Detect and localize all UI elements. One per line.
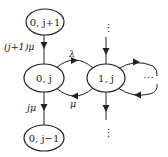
vertical-ellipsis-bottom: ⋮ bbox=[103, 127, 114, 140]
edge-right-to-1j bbox=[118, 84, 157, 99]
edge-1j-to-below: ⋮ bbox=[103, 92, 115, 140]
edge-label-jp1-mu: (j+1)μ bbox=[4, 41, 35, 52]
node-label: 0, j+1 bbox=[30, 17, 61, 28]
edge-label-j-mu: jμ bbox=[25, 102, 36, 113]
horizontal-ellipsis: ⋯ bbox=[143, 72, 154, 85]
node-label: 0, j−1 bbox=[29, 133, 60, 144]
node-0-j-minus-1: 0, j−1 bbox=[24, 125, 64, 151]
node-0-j-plus-1: 0, j+1 bbox=[26, 9, 64, 35]
node-label: 1, j bbox=[98, 73, 114, 84]
node-label: 0, j bbox=[36, 73, 52, 84]
edge-0jp1-to-0j bbox=[41, 35, 48, 64]
edge-above-to-1j: ⋮ bbox=[103, 22, 115, 64]
node-1-j: 1, j bbox=[87, 64, 125, 92]
edge-label-mu: μ bbox=[70, 98, 76, 109]
state-diagram: (j+1)μ jμ λ μ ⋮ ⋮ ⋯ 0, j+1 bbox=[0, 0, 168, 157]
vertical-ellipsis-top: ⋮ bbox=[103, 22, 114, 35]
edge-0j-to-0jm1 bbox=[41, 92, 48, 125]
edge-label-lambda: λ bbox=[68, 48, 75, 59]
node-0-j: 0, j bbox=[24, 64, 64, 92]
